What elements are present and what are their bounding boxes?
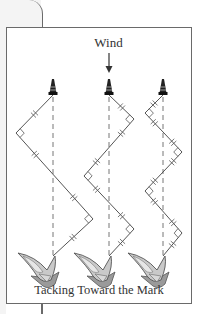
route-1: [16, 95, 93, 256]
buoy-icon: [105, 79, 114, 95]
wind-label: Wind: [0, 35, 205, 51]
buoy-icon: [159, 79, 168, 95]
wind-axis-lines: [53, 97, 163, 258]
tack-routes: [16, 95, 182, 256]
mark-buoys: [49, 79, 168, 95]
buoy-icon: [49, 79, 58, 95]
wind-arrow-icon: [106, 53, 113, 73]
diagram-caption: Tacking Toward the Mark: [6, 283, 192, 298]
right-angle-markers: [20, 109, 178, 238]
